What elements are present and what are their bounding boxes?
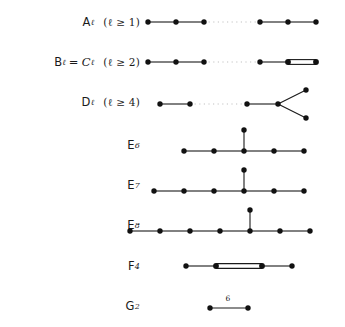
node [183, 263, 188, 268]
row-symbol-C: C [82, 55, 91, 69]
edge-label-G2: 6 [226, 294, 231, 303]
node [145, 19, 150, 24]
row-graph-A [120, 2, 345, 42]
diagram-row-E7: E7 [0, 165, 345, 205]
node-branch [241, 127, 246, 132]
node [201, 19, 206, 24]
node [145, 59, 150, 64]
row-subscript-C: ℓ [91, 58, 95, 67]
diagram-row-E6: E6 [0, 125, 345, 165]
node [211, 148, 216, 153]
node [275, 101, 280, 106]
row-symbol-A: A [83, 15, 91, 29]
node [157, 101, 162, 106]
node [307, 228, 312, 233]
node [277, 228, 282, 233]
equals-sign: = [69, 55, 79, 69]
node [313, 19, 318, 24]
diagram-row-BC: Bℓ = Cℓ (ℓ ≥ 2) [0, 42, 345, 82]
node [241, 148, 246, 153]
node [173, 19, 178, 24]
diagram-row-D: Dℓ (ℓ ≥ 4) [0, 82, 345, 122]
edge-fork-upper [278, 90, 306, 104]
node [245, 305, 250, 310]
node [173, 59, 178, 64]
diagram-row-F4: F4 [0, 246, 345, 286]
node-fork-lower [303, 115, 308, 120]
row-symbol-B: B [54, 55, 62, 69]
node [127, 228, 132, 233]
diagram-row-E8: E8 [0, 205, 345, 245]
node [301, 148, 306, 153]
row-graph-E7 [120, 165, 345, 205]
node [187, 101, 192, 106]
node [241, 188, 246, 193]
node [271, 188, 276, 193]
row-graph-F4 [120, 246, 345, 286]
node-fork-upper [303, 87, 308, 92]
node [211, 188, 216, 193]
node [201, 59, 206, 64]
node [181, 188, 186, 193]
node-branch [241, 167, 246, 172]
node [289, 263, 294, 268]
row-graph-D [120, 82, 345, 122]
dynkin-diagram-figure: Aℓ (ℓ ≥ 1) Bℓ = Cℓ (ℓ ≥ 2) [0, 0, 345, 327]
row-graph-E8 [120, 205, 345, 245]
node [207, 305, 212, 310]
node [244, 101, 249, 106]
row-symbol-D: D [82, 95, 91, 109]
node [257, 59, 262, 64]
edge-fork-lower [278, 104, 306, 118]
node-branch [247, 207, 252, 212]
diagram-row-G2: G2 6 [0, 286, 345, 326]
node [285, 59, 291, 65]
node [247, 228, 252, 233]
row-graph-BC [120, 42, 345, 82]
node [217, 228, 222, 233]
node [271, 148, 276, 153]
node [157, 228, 162, 233]
node [259, 263, 265, 269]
node [187, 228, 192, 233]
row-graph-G2: 6 [120, 286, 345, 326]
node [285, 19, 290, 24]
node [151, 188, 156, 193]
node [257, 19, 262, 24]
row-subscript-D: ℓ [91, 98, 95, 107]
node [301, 188, 306, 193]
row-graph-E6 [120, 125, 345, 165]
node [181, 148, 186, 153]
row-subscript-A: ℓ [91, 18, 95, 27]
diagram-row-A: Aℓ (ℓ ≥ 1) [0, 2, 345, 42]
node [213, 263, 219, 269]
row-subscript-B: ℓ [62, 58, 66, 67]
node [313, 59, 319, 65]
